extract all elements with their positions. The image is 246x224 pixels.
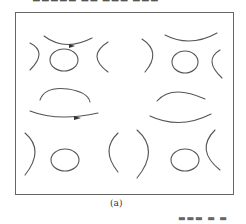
field-line-diagram: [0, 0, 246, 224]
arc-top-left-upper: [44, 36, 92, 45]
arc-top-right-right: [212, 50, 222, 78]
arc-bottom-right-left: [137, 130, 149, 178]
loop-top-left: [50, 49, 78, 71]
arc-bottom-left-right: [109, 133, 118, 172]
cropped-footer-text: ▬▬▬ ▬ ▬ ▬▬▬: [178, 214, 246, 224]
loop-top-right: [172, 51, 198, 73]
loop-bottom-right: [171, 149, 199, 171]
loop-bottom-left: [51, 149, 79, 171]
arc-top-right-left: [142, 39, 153, 72]
arc-top-left-left: [30, 43, 39, 70]
arc-middle-left-upper: [40, 88, 90, 102]
arc-bottom-right-right: [206, 130, 220, 170]
arc-bottom-left-left: [25, 133, 35, 175]
arc-top-left-right: [97, 42, 108, 72]
arc-middle-right-upper: [157, 92, 205, 101]
figure-caption: (a): [110, 198, 122, 208]
arc-middle-right-lower: [150, 114, 211, 123]
arc-middle-left-lower: [30, 111, 98, 117]
arc-top-right-upper: [165, 33, 217, 41]
